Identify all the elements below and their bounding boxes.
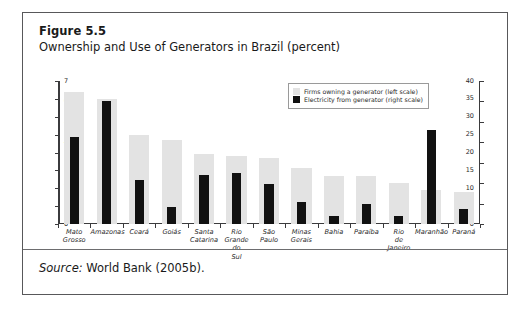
x-axis-category-label: Rio Grande do Sul <box>220 228 252 261</box>
bar-electricity-from-generator <box>199 175 208 224</box>
bar-group <box>259 81 279 224</box>
chart-legend: Firms owning a generator (left scale) El… <box>288 83 429 109</box>
x-axis-tick <box>123 224 124 228</box>
legend-label-electricity-from-generator: Electricity from generator (right scale) <box>304 96 423 103</box>
bar-electricity-from-generator <box>427 130 436 224</box>
x-axis-category-label: Minas Gerais <box>285 228 317 244</box>
x-axis-category-label: Paraíba <box>350 228 382 236</box>
source-text: World Bank (2005b). <box>83 261 205 275</box>
figure-title: Ownership and Use of Generators in Brazi… <box>39 40 340 54</box>
bar-electricity-from-generator <box>297 202 306 224</box>
bar-electricity-from-generator <box>329 216 338 224</box>
right-axis-tick <box>480 183 484 184</box>
source-divider <box>23 249 507 250</box>
x-axis-category-label: Mato Grosso <box>58 228 90 244</box>
x-axis-category-label: Maranhão <box>415 228 447 236</box>
bar-electricity-from-generator <box>394 216 403 224</box>
x-axis-tick <box>415 224 416 228</box>
x-axis-category-label: Bahia <box>318 228 350 236</box>
bar-electricity-from-generator <box>232 173 241 224</box>
bar-electricity-from-generator <box>70 137 79 224</box>
bar-group <box>64 81 84 224</box>
right-axis-tick <box>480 101 484 102</box>
bar-electricity-from-generator <box>362 204 371 224</box>
bar-electricity-from-generator <box>167 207 176 224</box>
figure-number: Figure 5.5 <box>39 24 106 38</box>
x-axis-tick <box>253 224 254 228</box>
right-axis-tick <box>480 142 484 143</box>
x-axis-category-label: Amazonas <box>90 228 122 236</box>
legend-item-electricity-from-generator: Electricity from generator (right scale) <box>293 96 423 103</box>
legend-swatch-icon-gray <box>293 88 300 95</box>
x-axis-tick <box>285 224 286 228</box>
right-axis-tick <box>480 163 484 164</box>
right-axis-tick <box>480 204 484 205</box>
x-axis-category-label: Paraná <box>448 228 480 236</box>
x-axis-tick <box>318 224 319 228</box>
bar-group <box>162 81 182 224</box>
x-axis-tick <box>383 224 384 228</box>
x-axis-category-label: São Paulo <box>253 228 285 244</box>
x-axis-tick <box>480 224 481 228</box>
right-axis-tick <box>480 81 484 82</box>
source-label: Source: <box>39 261 83 275</box>
bar-group <box>194 81 214 224</box>
x-axis-tick <box>90 224 91 228</box>
bar-electricity-from-generator <box>102 101 111 224</box>
bar-electricity-from-generator <box>135 180 144 224</box>
bar-group <box>129 81 149 224</box>
bar-group <box>454 81 474 224</box>
x-axis-category-label: Santa Catarina <box>188 228 220 244</box>
legend-label-firms-owning: Firms owning a generator (left scale) <box>304 88 418 95</box>
x-axis-category-label: Ceará <box>123 228 155 236</box>
x-axis-category-label: Goiás <box>155 228 187 236</box>
x-axis-tick <box>188 224 189 228</box>
source-note: Source: World Bank (2005b). <box>39 261 205 275</box>
legend-swatch-icon-black <box>293 96 300 103</box>
figure-panel: Figure 5.5 Ownership and Use of Generato… <box>22 12 508 295</box>
right-axis-tick <box>480 122 484 123</box>
x-axis-tick <box>448 224 449 228</box>
legend-item-firms-owning: Firms owning a generator (left scale) <box>293 88 423 95</box>
bar-electricity-from-generator <box>264 184 273 224</box>
x-axis-tick <box>350 224 351 228</box>
x-axis-tick <box>58 224 59 228</box>
bar-group <box>97 81 117 224</box>
bar-group <box>226 81 246 224</box>
bar-electricity-from-generator <box>459 209 468 224</box>
x-axis-tick <box>155 224 156 228</box>
x-axis-tick <box>220 224 221 228</box>
